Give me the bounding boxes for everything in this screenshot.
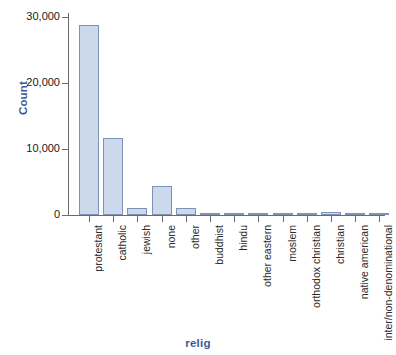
x-category-label: other eastern bbox=[262, 225, 273, 287]
x-category-label: jewish bbox=[141, 225, 152, 254]
x-category-label: native american bbox=[359, 225, 370, 299]
x-axis-line bbox=[68, 215, 385, 216]
bar bbox=[103, 138, 123, 215]
x-tick-mark bbox=[258, 216, 259, 222]
y-tick-label-wrap: 20,000 bbox=[0, 77, 60, 88]
y-tick-mark bbox=[62, 17, 68, 18]
y-tick-label: 20,000 bbox=[4, 77, 60, 88]
x-category-label: moslem bbox=[287, 225, 298, 262]
y-tick-label: 30,000 bbox=[4, 11, 60, 22]
x-tick-mark bbox=[113, 216, 114, 222]
x-tick-mark bbox=[210, 216, 211, 222]
x-category-label: hindu bbox=[238, 225, 249, 251]
x-category-label: christian bbox=[335, 225, 346, 264]
x-tick-mark bbox=[307, 216, 308, 222]
y-tick-mark bbox=[62, 83, 68, 84]
x-category-label: buddhist bbox=[214, 225, 225, 265]
x-tick-mark bbox=[283, 216, 284, 222]
bar bbox=[152, 186, 172, 215]
x-category-label: inter/non-denominational bbox=[383, 225, 394, 341]
x-tick-mark bbox=[137, 216, 138, 222]
x-tick-mark bbox=[89, 216, 90, 222]
y-tick-label-wrap: 0 bbox=[0, 209, 60, 220]
y-tick-mark bbox=[62, 149, 68, 150]
x-category-label: orthodox christian bbox=[311, 225, 322, 308]
bar bbox=[127, 208, 147, 215]
y-tick-label-wrap: 10,000 bbox=[0, 143, 60, 154]
bar bbox=[176, 208, 196, 215]
y-tick-label-wrap: 30,000 bbox=[0, 11, 60, 22]
y-tick-label: 0 bbox=[4, 209, 60, 220]
x-tick-mark bbox=[162, 216, 163, 222]
x-category-label: none bbox=[166, 225, 177, 248]
y-tick-label: 10,000 bbox=[4, 143, 60, 154]
x-tick-mark bbox=[331, 216, 332, 222]
x-category-label: other bbox=[190, 225, 201, 249]
bar-chart-figure: Count 010,00020,00030,000 protestantcath… bbox=[0, 0, 396, 355]
x-tick-mark bbox=[355, 216, 356, 222]
x-tick-mark bbox=[186, 216, 187, 222]
x-tick-mark bbox=[379, 216, 380, 222]
x-axis-title: relig bbox=[0, 337, 396, 349]
x-category-label: protestant bbox=[93, 225, 104, 272]
y-axis-line bbox=[68, 13, 69, 216]
x-category-label: catholic bbox=[117, 225, 128, 261]
x-tick-mark bbox=[234, 216, 235, 222]
bar bbox=[79, 25, 99, 215]
